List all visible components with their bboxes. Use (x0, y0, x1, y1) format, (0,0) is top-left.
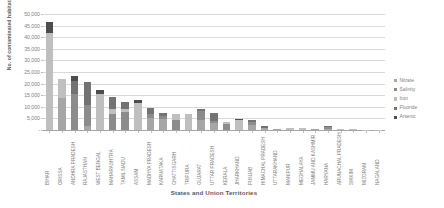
bar-segment-iron[interactable] (349, 129, 357, 130)
stacked-bar[interactable] (273, 129, 281, 130)
stacked-bar[interactable] (337, 129, 345, 130)
bar-segment-iron[interactable] (185, 114, 193, 130)
bar-segment-iron[interactable] (235, 120, 243, 130)
bar-segment-iron[interactable] (134, 103, 142, 130)
bar-column[interactable] (321, 14, 334, 130)
bar-column[interactable] (271, 14, 284, 130)
bar-segment-nitrate[interactable] (261, 128, 269, 130)
bar-segment-fluoride[interactable] (121, 102, 129, 109)
bar-column[interactable] (81, 14, 94, 130)
bar-segment-salinity[interactable] (121, 112, 129, 130)
bar-segment-nitrate[interactable] (311, 129, 319, 130)
bar-column[interactable] (347, 14, 360, 130)
bar-segment-nitrate[interactable] (159, 119, 167, 130)
x-axis-tick-label: JHARKHAND (235, 131, 241, 185)
bar-segment-arsenic[interactable] (46, 22, 54, 32)
stacked-bar[interactable] (235, 119, 243, 130)
bar-segment-nitrate[interactable] (210, 123, 218, 130)
bar-segment-fluoride[interactable] (210, 113, 218, 121)
bar-column[interactable] (144, 14, 157, 130)
bar-segment-salinity[interactable] (197, 111, 205, 119)
bar-segment-iron[interactable] (46, 33, 54, 130)
bar-segment-salinity[interactable] (109, 114, 117, 130)
bar-column[interactable] (283, 14, 296, 130)
stacked-bar[interactable] (109, 97, 117, 130)
bar-column[interactable] (170, 14, 183, 130)
stacked-bar[interactable] (84, 82, 92, 130)
stacked-bar[interactable] (197, 109, 205, 130)
legend-item[interactable]: Iron (394, 94, 444, 103)
stacked-bar[interactable] (147, 108, 155, 130)
bar-segment-salinity[interactable] (84, 105, 92, 125)
x-axis-tick-label: ORISSA (58, 131, 64, 185)
stacked-bar[interactable] (223, 122, 231, 130)
stacked-bar[interactable] (172, 114, 180, 130)
stacked-bar[interactable] (159, 113, 167, 130)
x-axis-tick-mark (113, 131, 114, 133)
stacked-bar[interactable] (96, 90, 104, 130)
bar-column[interactable] (246, 14, 259, 130)
stacked-bar[interactable] (58, 79, 66, 130)
legend-item[interactable]: Nitrate (394, 76, 444, 85)
bar-column[interactable] (132, 14, 145, 130)
bar-segment-nitrate[interactable] (147, 118, 155, 130)
bar-column[interactable] (68, 14, 81, 130)
bar-segment-salinity[interactable] (71, 94, 79, 130)
stacked-bar[interactable] (185, 114, 193, 130)
legend-item[interactable]: Fluoride (394, 104, 444, 113)
stacked-bar[interactable] (261, 126, 269, 130)
bar-segment-iron[interactable] (299, 128, 307, 130)
bar-column[interactable] (359, 14, 372, 130)
bar-column[interactable] (119, 14, 132, 130)
bar-column[interactable] (309, 14, 322, 130)
stacked-bar[interactable] (46, 22, 54, 130)
stacked-bar[interactable] (121, 102, 129, 130)
bar-column[interactable] (56, 14, 69, 130)
stacked-bar[interactable] (349, 129, 357, 130)
bar-column[interactable] (220, 14, 233, 130)
bar-column[interactable] (106, 14, 119, 130)
stacked-bar[interactable] (71, 76, 79, 130)
bar-segment-nitrate[interactable] (248, 125, 256, 130)
bar-segment-salinity[interactable] (172, 120, 180, 130)
bar-segment-iron[interactable] (337, 129, 345, 130)
stacked-bar[interactable] (134, 100, 142, 130)
stacked-bar[interactable] (324, 126, 332, 130)
bar-segment-salinity[interactable] (223, 124, 231, 130)
bar-segment-fluoride[interactable] (84, 82, 92, 106)
x-axis-tick-mark (125, 131, 126, 133)
bar-segment-fluoride[interactable] (71, 81, 79, 94)
stacked-bar[interactable] (248, 120, 256, 130)
bar-segment-nitrate[interactable] (273, 129, 281, 130)
stacked-bar[interactable] (311, 129, 319, 130)
legend-swatch-icon (394, 116, 397, 119)
bar-column[interactable] (195, 14, 208, 130)
bar-column[interactable] (296, 14, 309, 130)
stacked-bar[interactable] (299, 128, 307, 130)
x-axis-tick-label: MANIPUR (286, 131, 292, 185)
legend-item[interactable]: Salinity (394, 85, 444, 94)
bar-segment-nitrate[interactable] (84, 126, 92, 130)
bar-column[interactable] (208, 14, 221, 130)
bar-column[interactable] (157, 14, 170, 130)
stacked-bar[interactable] (210, 113, 218, 130)
bar-column[interactable] (182, 14, 195, 130)
stacked-bar[interactable] (286, 128, 294, 130)
bar-segment-nitrate[interactable] (58, 98, 66, 130)
bar-column[interactable] (372, 14, 385, 130)
bar-segment-iron[interactable] (58, 79, 66, 98)
bar-segment-iron[interactable] (286, 128, 294, 130)
bar-segment-fluoride[interactable] (109, 97, 117, 108)
bar-column[interactable] (258, 14, 271, 130)
bar-column[interactable] (43, 14, 56, 130)
bar-segment-nitrate[interactable] (324, 129, 332, 130)
bar-segment-iron[interactable] (96, 94, 104, 130)
x-axis-tick-mark (62, 131, 63, 133)
bar-column[interactable] (94, 14, 107, 130)
x-axis-tick-mark (214, 131, 215, 133)
legend-item[interactable]: Arsenic (394, 113, 444, 122)
x-axis-tick-label: KARNATAKA (159, 131, 165, 185)
bar-segment-nitrate[interactable] (197, 120, 205, 130)
bar-column[interactable] (233, 14, 246, 130)
bar-column[interactable] (334, 14, 347, 130)
